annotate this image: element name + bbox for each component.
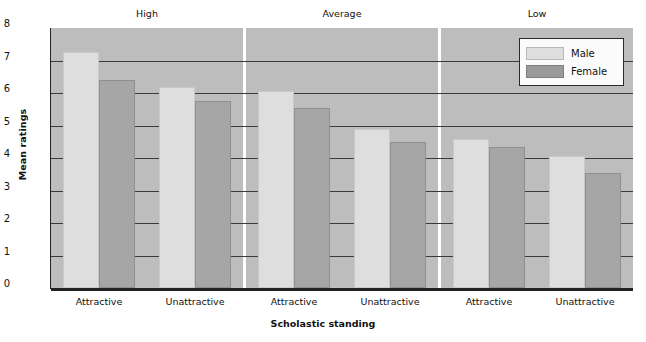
x-tick-label: Unattractive xyxy=(150,296,240,307)
legend-label-male: Male xyxy=(571,48,595,59)
y-tick-label: 5 xyxy=(0,117,10,127)
y-tick-label: 7 xyxy=(0,52,10,62)
gridline xyxy=(51,191,633,192)
x-tick-label: Unattractive xyxy=(540,296,630,307)
x-tick-label: Attractive xyxy=(54,296,144,307)
gridline xyxy=(51,158,633,159)
bar-male-attractive xyxy=(258,91,294,288)
gridline xyxy=(51,223,633,224)
x-tick-label: Attractive xyxy=(249,296,339,307)
x-tick-label: Unattractive xyxy=(345,296,435,307)
bar-female-attractive xyxy=(489,147,525,288)
y-tick-label: 6 xyxy=(0,84,10,94)
y-tick-label: 3 xyxy=(0,182,10,192)
bar-female-unattractive xyxy=(390,142,426,288)
panel-title: High xyxy=(51,8,243,19)
panel-title: Average xyxy=(246,8,438,19)
legend-swatch-female xyxy=(526,65,564,78)
y-tick-label: 0 xyxy=(0,279,10,289)
y-tick-label: 4 xyxy=(0,149,10,159)
y-tick-label: 8 xyxy=(0,19,10,29)
y-axis-title: Mean ratings xyxy=(17,85,28,205)
gridline xyxy=(51,256,633,257)
bar-chart-figure: Mean ratings 012345678 HighAverageLow At… xyxy=(0,0,646,342)
bar-male-unattractive xyxy=(354,129,390,288)
legend-item-male: Male xyxy=(526,44,617,62)
bar-female-attractive xyxy=(294,108,330,288)
bar-female-attractive xyxy=(99,80,135,288)
bar-male-attractive xyxy=(453,139,489,289)
panel-title: Low xyxy=(441,8,633,19)
bar-male-unattractive xyxy=(549,156,585,288)
bar-female-unattractive xyxy=(195,101,231,288)
gridline xyxy=(51,126,633,127)
x-axis-title: Scholastic standing xyxy=(0,318,646,329)
bar-male-unattractive xyxy=(159,87,195,289)
legend-label-female: Female xyxy=(571,66,607,77)
chart-legend: Male Female xyxy=(519,38,624,86)
x-axis-line xyxy=(51,288,633,291)
bar-male-attractive xyxy=(63,52,99,288)
legend-item-female: Female xyxy=(526,62,617,80)
bar-female-unattractive xyxy=(585,173,621,288)
y-tick-label: 2 xyxy=(0,214,10,224)
y-tick-label: 1 xyxy=(0,247,10,257)
x-tick-label: Attractive xyxy=(444,296,534,307)
gridline xyxy=(51,93,633,94)
legend-swatch-male xyxy=(526,47,564,60)
